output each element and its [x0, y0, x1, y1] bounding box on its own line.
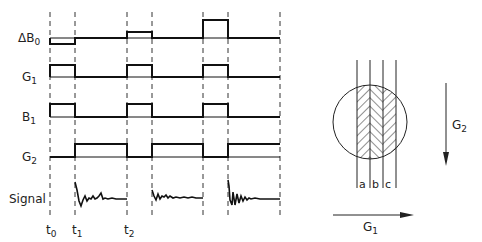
- strip-label-c: c: [385, 178, 391, 191]
- hatched-slices: [357, 80, 396, 170]
- arrow-right-icon: [400, 212, 414, 218]
- arrow-down-icon: [443, 152, 449, 166]
- waveform-g1: [50, 65, 280, 77]
- row-label-g1: G1: [22, 70, 37, 86]
- strip-label-b: b: [372, 178, 379, 191]
- waveform-b1: [50, 104, 280, 117]
- strip-label-a: a: [359, 178, 366, 191]
- slice-diagram: a b c G2 G1: [333, 60, 467, 236]
- waveform-delta-b0: [50, 20, 280, 44]
- g2-label: G2: [452, 118, 467, 134]
- row-label-g2: G2: [22, 150, 37, 166]
- waveform-signal: [75, 180, 280, 206]
- row-label-signal: Signal: [9, 192, 46, 206]
- time-marker-t1: t1: [72, 223, 82, 239]
- time-marker-t0: t0: [46, 223, 57, 239]
- time-gridlines: [50, 12, 280, 218]
- row-label-delta-b0: ΔB0: [18, 31, 40, 47]
- time-marker-t2: t2: [124, 223, 134, 239]
- row-label-b1: B1: [22, 110, 36, 126]
- mri-pulse-sequence-figure: ΔB0 G1 B1 G2 Signal t0 t1 t2: [0, 0, 482, 242]
- g1-label: G1: [363, 220, 378, 236]
- waveform-g2: [50, 144, 280, 157]
